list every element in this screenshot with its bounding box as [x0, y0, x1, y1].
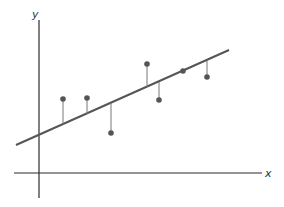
data-point [60, 96, 66, 102]
regression-diagram: x y [0, 0, 284, 207]
data-point [144, 61, 150, 67]
data-point [156, 97, 162, 103]
y-axis-label: y [31, 8, 39, 21]
x-axis-label: x [264, 167, 272, 180]
data-point [204, 74, 210, 80]
data-points [60, 61, 210, 136]
data-point [84, 95, 90, 101]
regression-line [16, 50, 229, 145]
data-point [180, 68, 186, 74]
data-point [108, 130, 114, 136]
